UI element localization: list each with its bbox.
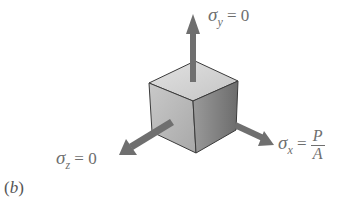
subscript-z: z <box>65 158 70 172</box>
subscript-y: y <box>217 15 222 29</box>
relation-equals-zero: = 0 <box>227 6 249 25</box>
sigma-symbol: σ <box>208 4 217 25</box>
sigma-z-label: σz = 0 <box>56 148 97 171</box>
relation-equals-zero: = 0 <box>74 149 96 168</box>
subscript-x: x <box>287 143 292 157</box>
arrow-down-right-icon <box>234 122 274 146</box>
numerator: P <box>311 128 325 146</box>
sigma-y-label: σy = 0 <box>208 5 249 28</box>
sigma-symbol: σ <box>56 147 65 168</box>
sigma-x-label: σx = P A <box>278 128 325 163</box>
stress-element-diagram <box>0 0 357 202</box>
caption-letter: b <box>10 178 19 197</box>
fraction-p-over-a: P A <box>311 128 325 163</box>
sigma-symbol: σ <box>278 132 287 153</box>
denominator: A <box>311 146 325 163</box>
relation-equals: = <box>297 134 307 153</box>
figure-caption: (b) <box>4 178 24 198</box>
